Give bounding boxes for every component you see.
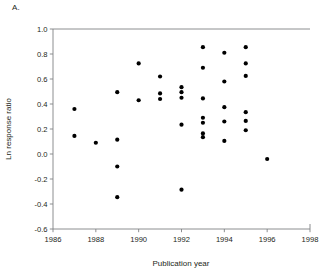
data-point [222,79,226,83]
x-axis-tick-labels: 1986198819901992199419961998 [45,235,319,244]
figure-panel-a: A. -0.6-0.4-0.20.00.20.40.60.81.0 198619… [0,0,325,275]
y-axis-tick-labels: -0.6-0.4-0.20.00.20.40.60.81.0 [34,25,47,234]
data-point [115,90,119,94]
data-point [222,139,226,143]
data-point [201,116,205,120]
x-tick-label: 1998 [302,235,319,244]
data-point [244,119,248,123]
y-tick-label: 0.0 [37,150,48,159]
x-axis-title: Publication year [153,259,210,268]
data-point [244,45,248,49]
x-tick-label: 1988 [87,235,104,244]
data-point [244,61,248,65]
data-point [179,85,183,89]
data-point [222,105,226,109]
y-tick-label: -0.6 [34,225,47,234]
data-point [179,96,183,100]
x-tick-label: 1996 [259,235,276,244]
data-point [94,141,98,145]
data-point [201,121,205,125]
x-tick-label: 1992 [173,235,190,244]
data-point [244,74,248,78]
data-point [244,110,248,114]
x-tick-label: 1990 [130,235,147,244]
x-axis-tick-marks [53,229,310,232]
data-point [115,164,119,168]
y-tick-label: 0.4 [37,100,48,109]
data-point [72,107,76,111]
data-point [179,188,183,192]
x-tick-label: 1986 [45,235,62,244]
data-point [158,74,162,78]
data-point [201,66,205,70]
data-point [201,96,205,100]
data-point [222,51,226,55]
data-point [244,128,248,132]
data-point [201,135,205,139]
y-tick-label: 0.6 [37,75,48,84]
y-tick-label: 0.2 [37,125,48,134]
y-tick-label: -0.2 [34,175,47,184]
axis-frame [53,29,310,229]
data-point [158,91,162,95]
data-point [265,157,269,161]
data-point [72,134,76,138]
x-tick-label: 1994 [216,235,233,244]
y-axis-tick-marks [50,29,53,229]
data-point [201,45,205,49]
data-point [115,138,119,142]
data-point [137,98,141,102]
data-point [158,97,162,101]
data-point [137,61,141,65]
data-point [222,119,226,123]
y-axis-title: Ln response ratio [4,98,13,160]
data-point [115,195,119,199]
data-point [201,131,205,135]
y-tick-label: -0.4 [34,200,47,209]
y-tick-label: 0.8 [37,50,48,59]
scatter-plot: -0.6-0.4-0.20.00.20.40.60.81.0 198619881… [0,0,325,275]
data-point [179,123,183,127]
data-points [72,45,269,199]
data-point [179,90,183,94]
y-tick-label: 1.0 [37,25,48,34]
